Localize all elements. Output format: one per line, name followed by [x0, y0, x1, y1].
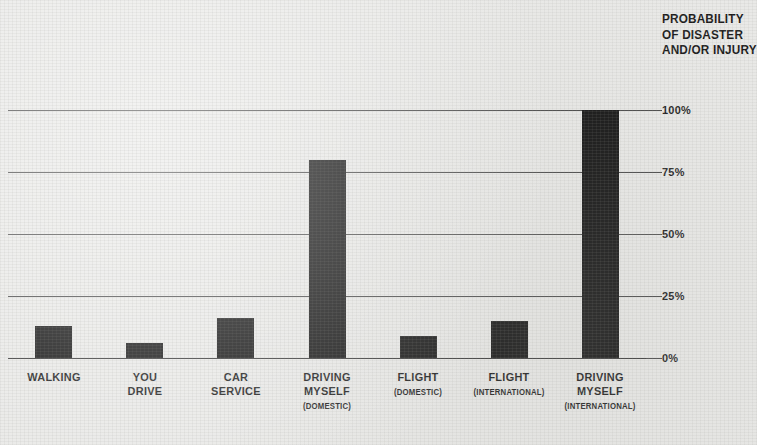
chart-title-line-2: OF DISASTER [662, 28, 752, 44]
y-tick-mark-0 [646, 358, 662, 359]
y-tick-label-0: 0% [662, 352, 678, 364]
bar [35, 326, 72, 358]
chart-title: PROBABILITY OF DISASTER AND/OR INJURY [662, 12, 752, 59]
bar [217, 318, 254, 358]
y-tick-mark-25 [646, 296, 662, 297]
x-axis-label-line: MYSELF [543, 384, 657, 398]
y-tick-mark-75 [646, 172, 662, 173]
x-axis-category-labels: WALKINGYOUDRIVECARSERVICEDRIVINGMYSELF(D… [0, 370, 660, 440]
bars-layer [8, 110, 646, 358]
bar [582, 110, 619, 358]
bar [491, 321, 528, 358]
bar [309, 160, 346, 358]
bar [126, 343, 163, 358]
y-tick-mark-50 [646, 234, 662, 235]
y-tick-label-100: 100% [662, 104, 691, 116]
y-tick-label-75: 75% [662, 166, 685, 178]
bar-chart: PROBABILITY OF DISASTER AND/OR INJURY 10… [0, 0, 757, 445]
x-axis-label-sublabel: (DOMESTIC) [270, 400, 384, 414]
gridline-0 [8, 358, 646, 359]
chart-title-line-1: PROBABILITY [662, 12, 752, 28]
x-axis-label: DRIVINGMYSELF(INTERNATIONAL) [540, 370, 660, 414]
x-axis-label-line: DRIVING [543, 370, 657, 384]
y-tick-mark-100 [646, 110, 662, 111]
y-tick-label-50: 50% [662, 228, 685, 240]
chart-title-line-3: AND/OR INJURY [662, 43, 752, 59]
y-tick-label-25: 25% [662, 290, 685, 302]
bar [400, 336, 437, 358]
x-axis-label-sublabel: (INTERNATIONAL) [543, 400, 657, 414]
